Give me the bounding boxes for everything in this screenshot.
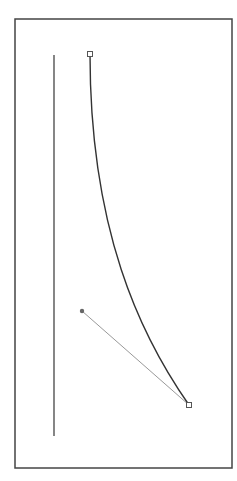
end-anchor-point[interactable] — [187, 403, 192, 408]
control-handle-line[interactable] — [82, 311, 189, 405]
control-handle-point[interactable] — [80, 309, 84, 313]
canvas-frame — [15, 19, 232, 468]
bezier-curve[interactable] — [90, 54, 189, 405]
bezier-diagram — [0, 0, 237, 481]
start-anchor-point[interactable] — [88, 52, 93, 57]
